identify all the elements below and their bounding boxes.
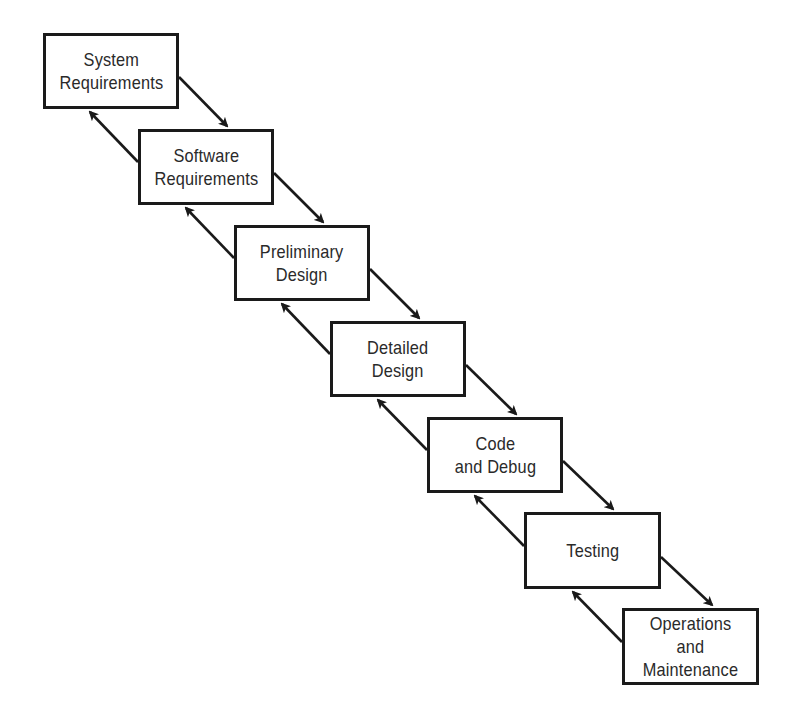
forward-arrow-software-requirements-to-preliminary-design — [274, 173, 323, 222]
feedback-arrow-software-requirements-to-system-requirements — [90, 112, 138, 162]
stage-label: Preliminary Design — [260, 240, 344, 286]
stage-detailed-design: Detailed Design — [330, 321, 466, 397]
feedback-arrow-operations-and-maintenance-to-testing — [573, 592, 622, 642]
forward-arrow-detailed-design-to-code-and-debug — [466, 365, 516, 414]
feedback-arrow-preliminary-design-to-software-requirements — [186, 208, 234, 258]
forward-arrow-system-requirements-to-software-requirements — [179, 77, 227, 126]
stage-preliminary-design: Preliminary Design — [234, 225, 370, 301]
stage-testing: Testing — [524, 512, 661, 589]
stage-label: Software Requirements — [154, 144, 258, 190]
stage-software-requirements: Software Requirements — [138, 129, 274, 205]
stage-code-and-debug: Code and Debug — [427, 417, 563, 493]
stage-label: Testing — [566, 539, 619, 562]
waterfall-diagram: System Requirements Software Requirement… — [0, 0, 798, 725]
stage-label: System Requirements — [59, 48, 163, 94]
stage-label: Detailed Design — [367, 336, 428, 382]
stage-label: Operations and Maintenance — [643, 612, 738, 681]
stage-system-requirements: System Requirements — [43, 33, 179, 109]
stage-operations-and-maintenance: Operations and Maintenance — [622, 608, 759, 685]
feedback-arrow-detailed-design-to-preliminary-design — [282, 304, 330, 354]
feedback-arrow-testing-to-code-and-debug — [475, 496, 524, 546]
feedback-arrow-code-and-debug-to-detailed-design — [378, 400, 427, 450]
forward-arrow-testing-to-operations-and-maintenance — [661, 557, 712, 605]
forward-arrow-preliminary-design-to-detailed-design — [370, 269, 419, 318]
forward-arrow-code-and-debug-to-testing — [563, 461, 613, 509]
stage-label: Code and Debug — [454, 432, 536, 478]
